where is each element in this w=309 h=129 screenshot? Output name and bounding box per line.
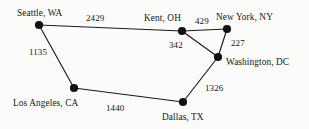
node-seattle[interactable] — [35, 21, 43, 29]
node-washington[interactable] — [214, 53, 222, 61]
nodes-group — [35, 21, 231, 106]
edge-dallas-washington — [183, 57, 218, 102]
city-label-newyork: New York, NY — [216, 13, 273, 22]
edge-newyork-washington — [218, 29, 227, 57]
city-label-losangeles: Los Angeles, CA — [13, 99, 78, 108]
edge-weight-kent-washington: 342 — [169, 41, 183, 50]
edge-weight-newyork-washington: 227 — [231, 39, 245, 48]
edge-weight-seattle-kent: 2429 — [86, 14, 104, 23]
edge-weight-losangeles-dallas: 1440 — [106, 104, 124, 113]
edges-group — [39, 25, 227, 102]
edge-kent-washington — [182, 31, 218, 57]
node-kent[interactable] — [178, 27, 186, 35]
node-newyork[interactable] — [223, 25, 231, 33]
node-losangeles[interactable] — [70, 84, 78, 92]
edge-losangeles-dallas — [74, 88, 183, 102]
node-dallas[interactable] — [179, 98, 187, 106]
city-label-dallas: Dallas, TX — [162, 113, 204, 122]
edge-kent-newyork — [182, 29, 227, 31]
city-label-seattle: Seattle, WA — [17, 9, 62, 18]
graph-diagram-canvas: Seattle, WAKent, OHNew York, NYWashingto… — [0, 0, 309, 129]
edge-weight-dallas-washington: 1326 — [205, 84, 223, 93]
city-label-kent: Kent, OH — [144, 14, 181, 23]
edge-weight-seattle-losangeles: 1135 — [29, 48, 47, 57]
edge-seattle-kent — [39, 25, 182, 31]
edge-weight-kent-newyork: 429 — [195, 17, 209, 26]
city-label-washington: Washington, DC — [226, 58, 289, 67]
